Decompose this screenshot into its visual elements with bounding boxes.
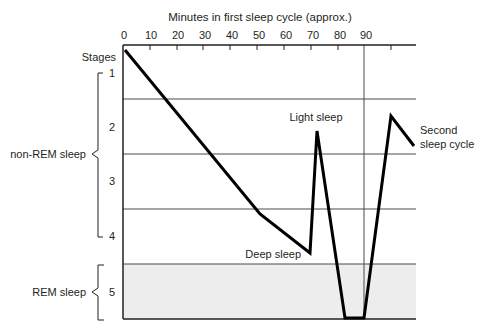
- stage-labels: 1 2 3 4 5: [109, 67, 115, 298]
- second-cycle-annotation-line2: sleep cycle: [420, 138, 474, 150]
- light-sleep-annotation: Light sleep: [289, 111, 342, 123]
- stage-label: 4: [109, 230, 115, 242]
- second-cycle-annotation-line1: Second: [420, 124, 457, 136]
- chart-title: Minutes in first sleep cycle (approx.): [168, 11, 352, 23]
- rem-shaded-band: [123, 264, 416, 319]
- non-rem-label: non-REM sleep: [10, 148, 86, 160]
- x-tick-label: 90: [360, 29, 372, 41]
- sleep-cycle-chart: Minutes in first sleep cycle (approx.) 0…: [0, 0, 485, 334]
- stage-label: 1: [109, 67, 115, 79]
- x-tick-label: 40: [226, 29, 238, 41]
- stages-label: Stages: [82, 51, 117, 63]
- x-tick-labels: 0 10 20 30 40 50 60 70 80 90: [121, 29, 372, 41]
- x-tick-label: 50: [253, 29, 265, 41]
- deep-sleep-annotation: Deep sleep: [245, 248, 301, 260]
- stage-label: 5: [109, 286, 115, 298]
- x-tick-label: 10: [145, 29, 157, 41]
- x-tick-label: 20: [172, 29, 184, 41]
- rem-label: REM sleep: [32, 286, 86, 298]
- grid-lines: [123, 99, 416, 264]
- rem-bracket: [92, 265, 104, 320]
- x-tick-label: 30: [199, 29, 211, 41]
- x-tick-label: 0: [121, 29, 127, 41]
- stage-label: 3: [109, 175, 115, 187]
- x-tick-label: 60: [280, 29, 292, 41]
- x-tick-label: 80: [334, 29, 346, 41]
- stage-label: 2: [109, 121, 115, 133]
- non-rem-bracket: [92, 73, 103, 237]
- x-tick-label: 70: [307, 29, 319, 41]
